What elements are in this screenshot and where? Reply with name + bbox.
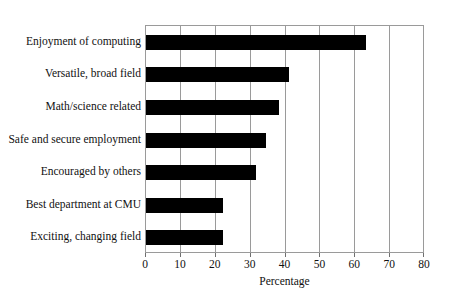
x-tick-label: 10 (165, 257, 195, 271)
category-label: Exciting, changing field (1, 230, 141, 242)
category-label: Math/science related (1, 100, 141, 112)
x-axis-ticks: 01020304050607080 (145, 253, 424, 271)
bar-row (146, 133, 425, 148)
category-label: Encouraged by others (1, 165, 141, 177)
bar (146, 230, 223, 245)
bar-row (146, 230, 425, 245)
bar (146, 67, 289, 82)
x-tick-label: 60 (339, 257, 369, 271)
x-tick-label: 80 (409, 257, 439, 271)
bar (146, 35, 366, 50)
x-tick-label: 20 (200, 257, 230, 271)
bar-row (146, 67, 425, 82)
x-axis-title: Percentage (145, 274, 424, 288)
bar-row (146, 100, 425, 115)
bar-row (146, 165, 425, 180)
x-tick-label: 50 (304, 257, 334, 271)
x-tick-label: 30 (235, 257, 265, 271)
bar (146, 198, 223, 213)
plot-area (145, 25, 424, 253)
category-label: Versatile, broad field (1, 67, 141, 79)
bar (146, 133, 266, 148)
category-label: Safe and secure employment (1, 133, 141, 145)
x-tick-label: 40 (270, 257, 300, 271)
bar (146, 100, 279, 115)
category-axis-labels: Enjoyment of computingVersatile, broad f… (0, 25, 141, 253)
x-tick-label: 0 (130, 257, 160, 271)
bar-chart: Enjoyment of computingVersatile, broad f… (0, 0, 449, 299)
bar-row (146, 198, 425, 213)
bar (146, 165, 256, 180)
category-label: Best department at CMU (1, 198, 141, 210)
x-tick-label: 70 (374, 257, 404, 271)
bar-row (146, 35, 425, 50)
category-label: Enjoyment of computing (1, 35, 141, 47)
